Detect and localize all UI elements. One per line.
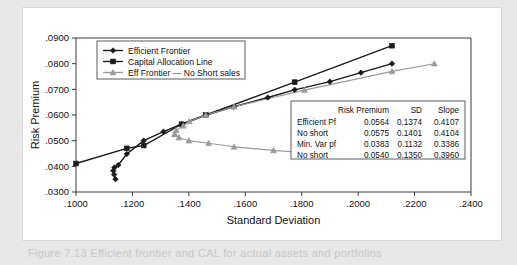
legend-label: Capital Allocation Line <box>128 57 213 67</box>
x-tick-label: .1000 <box>64 198 88 209</box>
table-cell: 0.3960 <box>434 151 459 160</box>
figure-caption: Figure 7.13 Efficient frontier and CAL f… <box>28 247 498 263</box>
series-1-marker <box>74 161 79 166</box>
legend-marker-square-icon <box>111 59 116 64</box>
series-0-marker <box>358 70 364 76</box>
table-header: Slope <box>438 106 459 115</box>
y-tick-label: .0500 <box>45 135 69 146</box>
x-tick-label: .2000 <box>346 198 370 209</box>
series-1-marker <box>124 146 129 151</box>
table-cell: 0.1350 <box>397 151 422 160</box>
y-tick-label: .0700 <box>45 84 69 95</box>
x-tick-label: .1400 <box>177 198 201 209</box>
table-cell: 0.0564 <box>364 118 389 127</box>
table-cell: 0.1401 <box>397 129 422 138</box>
legend-label: Eff Frontier — No Short sales <box>128 68 240 78</box>
y-tick-label: .0800 <box>45 58 69 69</box>
series-0-marker <box>389 61 395 67</box>
x-tick-label: .2200 <box>403 198 427 209</box>
table-cell: 0.1132 <box>398 140 423 149</box>
figure-card: .0300.0400.0500.0600.0700.0800.0900.1000… <box>23 8 501 240</box>
y-tick-label: .0900 <box>45 32 69 43</box>
table-cell: 0.0540 <box>364 151 389 160</box>
table-cell: 0.3386 <box>434 140 459 149</box>
table-cell: No short <box>297 151 329 160</box>
table-cell: 0.0575 <box>364 129 389 138</box>
table-header: SD <box>411 106 422 115</box>
chart-legend: Efficient FrontierCapital Allocation Lin… <box>97 41 245 79</box>
x-tick-label: .1600 <box>233 198 257 209</box>
y-axis-title: Risk Premium <box>29 81 41 149</box>
table-cell: Efficient Pf <box>297 118 337 127</box>
table-cell: 0.0383 <box>364 140 389 149</box>
series-1-marker <box>141 143 146 148</box>
y-tick-label: .0600 <box>45 109 69 120</box>
table-header: Risk Premium <box>338 106 389 115</box>
x-axis-title: Standard Deviation <box>227 214 321 226</box>
series-1-marker <box>390 43 395 48</box>
table-cell: Min. Var pf <box>297 140 337 149</box>
figure-page: .0300.0400.0500.0600.0700.0800.0900.1000… <box>0 0 517 265</box>
series-2-marker <box>431 61 437 66</box>
table-cell: No short <box>297 129 329 138</box>
x-tick-label: .1800 <box>290 198 314 209</box>
y-tick-label: .0300 <box>45 186 69 197</box>
series-0-marker <box>327 79 333 85</box>
table-cell: 0.1374 <box>397 118 422 127</box>
table-cell: 0.4107 <box>434 118 459 127</box>
x-tick-label: .1200 <box>121 198 145 209</box>
series-1-marker <box>292 80 297 85</box>
table-cell: 0.4104 <box>434 129 459 138</box>
y-tick-label: .0400 <box>45 161 69 172</box>
x-tick-label: .2400 <box>459 198 483 209</box>
risk-premium-vs-standard-deviation-chart: .0300.0400.0500.0600.0700.0800.0900.1000… <box>23 8 501 240</box>
statistics-table: Risk PremiumSDSlopeEfficient Pf0.05640.1… <box>291 101 465 160</box>
legend-label: Efficient Frontier <box>128 46 191 56</box>
